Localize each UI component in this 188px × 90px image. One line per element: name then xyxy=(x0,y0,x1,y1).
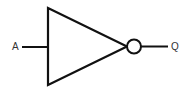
buffer-triangle xyxy=(48,8,127,85)
inversion-bubble xyxy=(127,40,141,54)
input-label: A xyxy=(12,42,19,52)
not-gate-diagram xyxy=(0,0,188,90)
output-label: Q xyxy=(171,42,179,52)
